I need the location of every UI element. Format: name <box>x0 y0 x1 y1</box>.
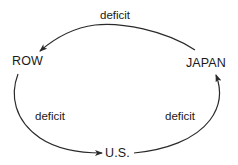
arrows-layer <box>0 0 238 165</box>
node-row-label: ROW <box>12 55 43 68</box>
edge-japan-to-row-arrow <box>40 24 195 51</box>
edge-row-to-us-label: deficit <box>35 111 65 123</box>
node-japan-label: JAPAN <box>186 57 226 70</box>
edge-japan-to-row-label: deficit <box>100 10 130 22</box>
node-us-label: U.S. <box>105 147 130 160</box>
edge-us-to-japan-label: deficit <box>165 111 195 123</box>
deficit-cycle-diagram: ROW JAPAN U.S. deficit deficit deficit <box>0 0 238 165</box>
